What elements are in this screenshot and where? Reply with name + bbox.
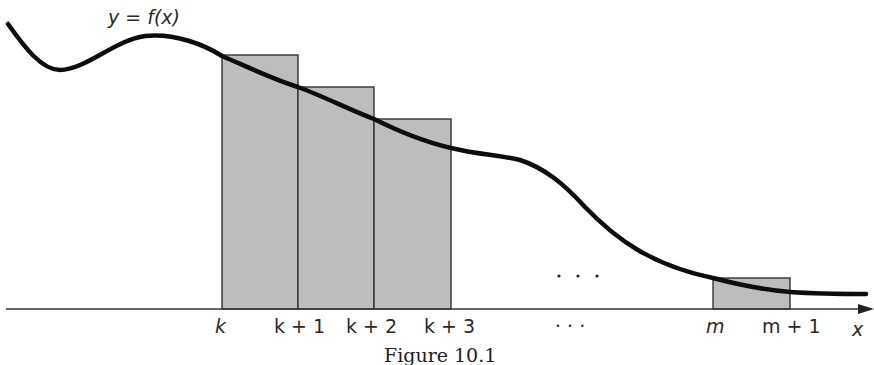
rectangle-k-plus-2 (374, 119, 451, 309)
tick-label-k-plus-1: k + 1 (274, 315, 325, 337)
riemann-sum-diagram: y = f(x) k k + 1 k + 2 k + 3 · · · m m +… (0, 0, 874, 365)
tick-label-m: m (706, 315, 725, 337)
tick-labels: k k + 1 k + 2 k + 3 · · · m m + 1 x (215, 315, 864, 340)
tick-label-k-plus-3: k + 3 (424, 315, 475, 337)
rectangle-k (222, 55, 298, 309)
rectangle-k-plus-1 (298, 87, 374, 309)
axis-label-x: x (851, 318, 864, 340)
tick-label-m-plus-1: m + 1 (762, 315, 821, 337)
rectangles (222, 55, 790, 309)
function-label: y = f(x) (107, 6, 180, 28)
tick-label-k: k (215, 315, 227, 337)
tick-label-ellipsis: · · · (555, 315, 585, 337)
ellipsis-above (557, 274, 598, 277)
tick-label-k-plus-2: k + 2 (346, 315, 397, 337)
axis-arrow-icon (858, 304, 874, 314)
figure-caption: Figure 10.1 (384, 344, 496, 365)
